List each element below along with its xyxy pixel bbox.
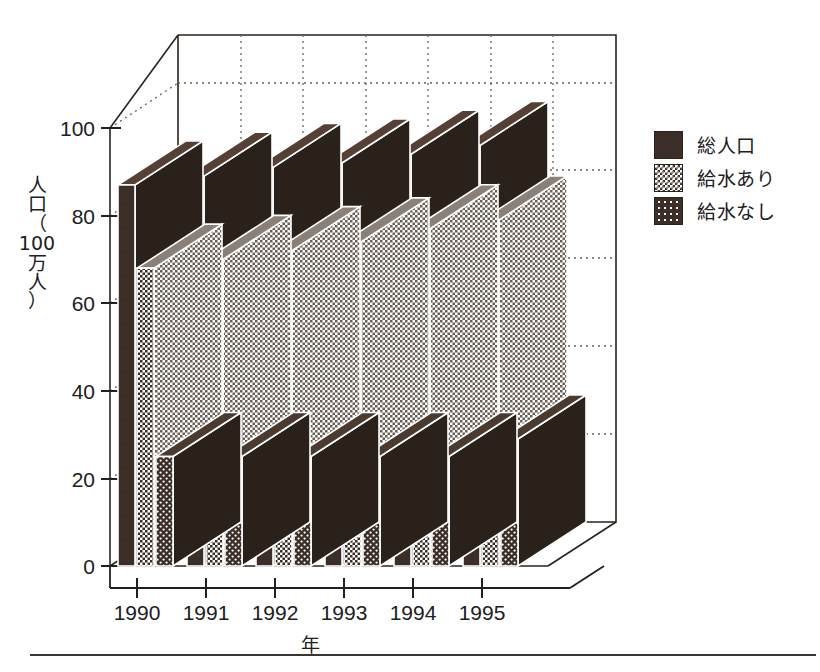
x-axis-title: 年: [301, 634, 320, 656]
y-tick-0: 0: [83, 555, 95, 578]
chart-page: 100 80 60 40 20 0 1990 1991 1992: [0, 0, 820, 672]
x-tick-1994: 1994: [390, 601, 437, 624]
y-tick-80: 80: [72, 205, 95, 228]
y-axis-title-char-4: 万: [14, 254, 60, 273]
y-axis-title: 人 口 （ 100 万 人 ）: [14, 176, 60, 312]
x-tick-1993: 1993: [321, 601, 368, 624]
checker-grey-swatch-icon: [654, 164, 683, 192]
legend: 総人口 給水あり 給水なし: [654, 128, 814, 227]
legend-label-total-population: 総人口: [697, 131, 756, 158]
x-tick-1992: 1992: [252, 601, 299, 624]
y-axis-title-char-1: 口: [14, 195, 60, 214]
y-tick-60: 60: [72, 292, 95, 315]
legend-item-total-population: 総人口: [654, 128, 814, 161]
legend-item-with-water-supply: 給水あり: [654, 161, 814, 194]
y-axis-title-char-3: 100: [14, 234, 60, 253]
legend-label-without-water-supply: 給水なし: [697, 197, 775, 224]
x-tick-1990: 1990: [114, 601, 161, 624]
y-tick-100: 100: [60, 117, 95, 140]
bars-layer: [118, 102, 586, 566]
x-tick-1995: 1995: [459, 601, 506, 624]
dotted-dark-swatch-icon: [654, 197, 683, 225]
y-axis-title-char-6: ）: [14, 292, 60, 311]
y-tick-20: 20: [72, 468, 95, 491]
y-tick-40: 40: [72, 380, 95, 403]
population-water-supply-3d-bar-chart: 100 80 60 40 20 0 1990 1991 1992: [0, 0, 820, 672]
x-tick-1991: 1991: [183, 601, 230, 624]
legend-label-with-water-supply: 給水あり: [697, 164, 775, 191]
footer-rule: [30, 654, 816, 656]
legend-item-without-water-supply: 給水なし: [654, 194, 814, 227]
solid-dark-swatch-icon: [654, 131, 683, 159]
